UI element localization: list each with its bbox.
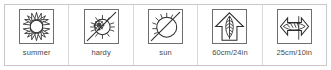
sun-half-rays-icon	[148, 9, 183, 44]
legend-caption: hardy	[91, 48, 110, 57]
legend-caption: 25cm/10in	[277, 48, 313, 57]
plant-spread-arrow-icon	[277, 9, 312, 44]
plant-care-legend-strip: summer	[0, 0, 331, 70]
sun-crossed-hardy-icon	[84, 9, 119, 44]
legend-cell-summer: summer	[5, 5, 69, 65]
legend-cell-row: summer	[5, 5, 326, 65]
legend-caption: summer	[23, 48, 51, 57]
legend-cell-spread: 25cm/10in	[263, 5, 326, 65]
legend-cell-height: 60cm/24in	[198, 5, 262, 65]
legend-cell-hardy: hardy	[69, 5, 133, 65]
legend-caption: 60cm/24in	[212, 48, 248, 57]
legend-caption: sun	[159, 48, 171, 57]
plant-height-arrow-icon	[212, 9, 247, 44]
legend-cell-sun: sun	[134, 5, 198, 65]
sun-rays-icon	[19, 9, 54, 44]
